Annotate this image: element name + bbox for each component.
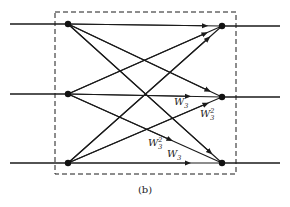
butterfly-diagram [0, 0, 290, 207]
node-right-0 [219, 23, 225, 29]
node-right-2 [219, 160, 225, 166]
node-left-0 [65, 21, 71, 27]
node-left-1 [65, 91, 71, 97]
weight-label-w3-b: W3 [167, 149, 181, 162]
weight-label-w3-a: W3 [174, 97, 188, 110]
node-left-2 [65, 160, 71, 166]
weight-label-w3sq-b: W23 [148, 137, 162, 150]
weight-label-w3sq-a: W23 [200, 108, 214, 121]
figure-caption: (b) [0, 184, 290, 195]
node-right-1 [219, 94, 225, 100]
edges [68, 24, 222, 163]
